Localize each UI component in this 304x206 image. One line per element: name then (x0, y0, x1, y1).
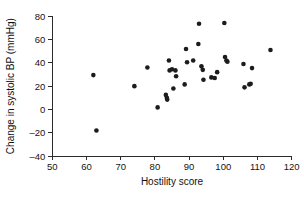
data-point (241, 62, 246, 67)
y-axis: 806040200–20–40 (29, 11, 52, 162)
data-point (225, 59, 230, 64)
data-point (155, 105, 160, 110)
scatter-plot-figure: 806040200–20–40 5060708090100110120 Chan… (0, 0, 304, 206)
data-point (222, 21, 227, 26)
x-tick-label: 80 (150, 161, 161, 172)
y-axis-title: Change in systolic BP (mmHg) (5, 18, 16, 154)
data-point (250, 66, 255, 71)
data-point (173, 68, 178, 73)
data-point (165, 97, 170, 102)
data-point (174, 74, 179, 79)
data-point (248, 82, 253, 87)
data-point (215, 70, 220, 75)
x-axis: 5060708090100110120 (47, 156, 300, 172)
x-axis-title: Hostility score (141, 176, 204, 187)
x-tick-label: 50 (47, 161, 58, 172)
data-point (200, 68, 205, 73)
plot-canvas: 806040200–20–40 5060708090100110120 Chan… (0, 0, 304, 206)
data-point (196, 42, 201, 47)
data-point (145, 65, 150, 70)
y-tick-label: 40 (35, 57, 46, 68)
data-point (182, 82, 187, 87)
y-tick-label: 0 (40, 104, 45, 115)
x-tick-label: 120 (284, 161, 300, 172)
data-point (185, 60, 190, 65)
data-points (91, 21, 273, 133)
y-tick-label: 20 (35, 81, 46, 92)
data-point (171, 86, 176, 91)
data-point (201, 77, 206, 82)
x-tick-label: 110 (250, 161, 265, 172)
data-point (191, 58, 196, 63)
data-point (167, 58, 172, 63)
data-point (268, 48, 273, 53)
data-point (197, 21, 202, 26)
y-tick-label: 60 (35, 34, 46, 45)
data-point (94, 128, 99, 133)
data-point (132, 84, 137, 89)
data-point (242, 85, 247, 90)
x-tick-label: 100 (215, 161, 231, 172)
x-tick-label: 90 (184, 161, 195, 172)
y-tick-label: 80 (35, 11, 46, 22)
data-point (184, 47, 189, 52)
data-point (212, 76, 217, 81)
x-tick-label: 70 (115, 161, 126, 172)
data-point (91, 73, 96, 78)
x-tick-label: 60 (81, 161, 92, 172)
y-tick-label: –40 (29, 151, 45, 162)
y-tick-label: –20 (29, 127, 45, 138)
